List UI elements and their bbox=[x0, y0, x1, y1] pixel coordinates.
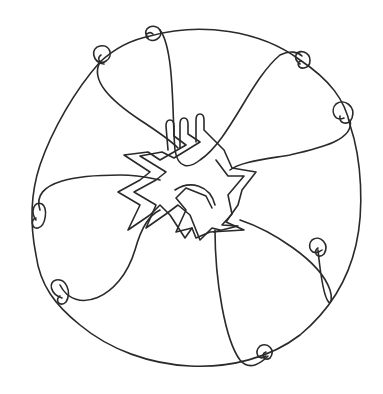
petal-line bbox=[39, 175, 160, 210]
petal-line bbox=[230, 120, 350, 170]
outer-ring bbox=[32, 29, 361, 366]
curl-icon bbox=[51, 280, 68, 304]
drawing-canvas bbox=[0, 0, 383, 394]
petal-line bbox=[97, 62, 178, 148]
curl-icon bbox=[296, 52, 310, 68]
zigzag-figure bbox=[214, 160, 244, 232]
curl-group bbox=[32, 26, 352, 359]
center-figures bbox=[118, 114, 256, 240]
petal-line bbox=[60, 210, 160, 300]
petal-line bbox=[160, 30, 302, 166]
petal-line bbox=[240, 220, 331, 303]
